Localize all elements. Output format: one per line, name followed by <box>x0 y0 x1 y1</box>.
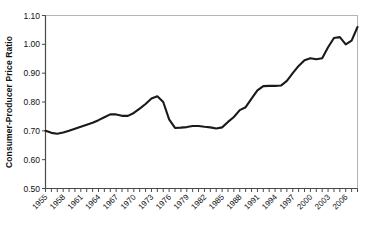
y-axis-tick-label: 0.70 <box>23 126 40 136</box>
y-axis-tick-label: 0.80 <box>23 97 40 107</box>
chart-container: 0.500.600.700.800.901.001.10 19551958196… <box>0 0 375 232</box>
y-axis-tick-label: 0.50 <box>23 184 40 194</box>
y-axis-title: Consumer-Producer Price Ratio <box>4 36 14 168</box>
y-axis-tick-label: 0.90 <box>23 68 40 78</box>
line-chart: 0.500.600.700.800.901.001.10 19551958196… <box>0 0 375 232</box>
y-axis-tick-label: 1.00 <box>23 39 40 49</box>
y-axis-tick-label: 1.10 <box>23 11 40 21</box>
y-axis-tick-label: 0.60 <box>23 155 40 165</box>
